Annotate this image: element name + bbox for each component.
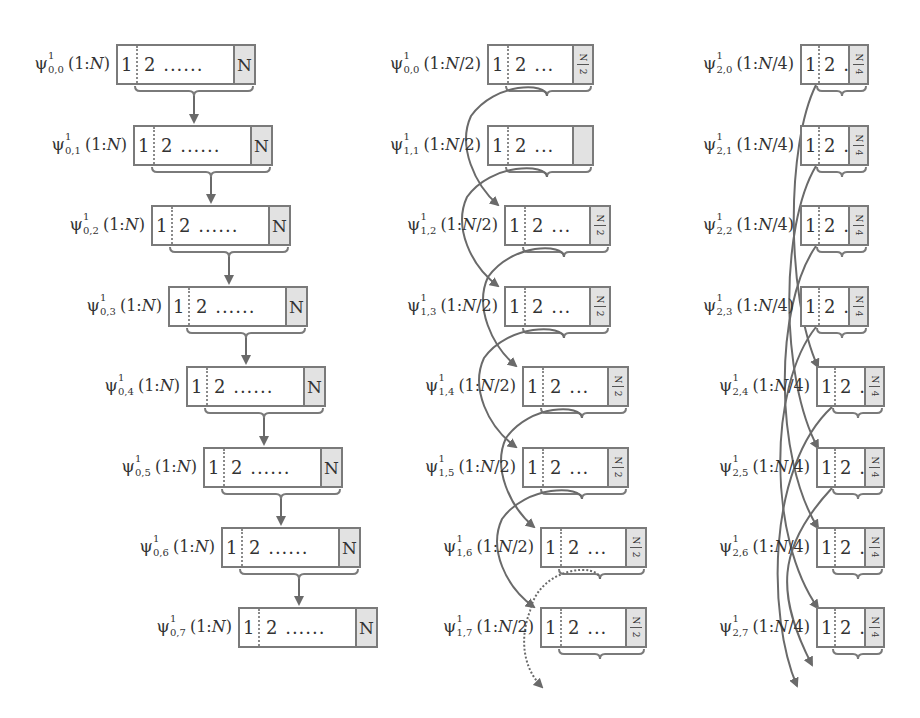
superscript: 1 bbox=[732, 534, 738, 544]
node-label: ψ11,6(1:N/2) bbox=[443, 538, 534, 556]
cell-index-1: 1 bbox=[821, 529, 832, 566]
index-stack: 12,0 bbox=[716, 57, 736, 73]
index-stack: 12,7 bbox=[732, 620, 752, 636]
index-stack: 10,3 bbox=[100, 299, 120, 315]
psi-symbol: ψ bbox=[703, 134, 716, 154]
range-text: (1:N) bbox=[68, 54, 110, 73]
cell-index-1: 1 bbox=[138, 127, 149, 164]
end-cell-denominator: 4 bbox=[870, 632, 879, 638]
range-text: (1:N) bbox=[155, 457, 197, 476]
superscript: 1 bbox=[420, 293, 426, 303]
subscript: 0,0 bbox=[48, 65, 64, 75]
brace bbox=[817, 86, 866, 96]
node-label: ψ11,1(1:N/2) bbox=[390, 136, 481, 154]
end-cell-numerator: N bbox=[596, 215, 605, 223]
end-cell-numerator: N bbox=[614, 376, 623, 384]
cell-divider bbox=[818, 46, 820, 83]
cell-divider bbox=[834, 609, 836, 646]
range-variable: N bbox=[498, 617, 512, 636]
cell-divider bbox=[834, 529, 836, 566]
end-cell-denominator: 4 bbox=[854, 311, 863, 317]
cell-index-2-ellipsis: 2 ...... bbox=[249, 529, 309, 566]
end-cell: N2 bbox=[625, 529, 645, 566]
subscript: 2,5 bbox=[732, 468, 748, 478]
node-label: ψ12,2(1:N/4) bbox=[703, 216, 794, 234]
end-cell-numerator: N bbox=[614, 457, 623, 465]
cell-index-1: 1 bbox=[509, 288, 520, 325]
superscript: 1 bbox=[438, 373, 444, 383]
fraction-bar bbox=[612, 467, 625, 468]
psi-symbol: ψ bbox=[703, 214, 716, 234]
end-cell-numerator: N bbox=[870, 376, 879, 384]
range-text: (1:N) bbox=[85, 135, 127, 154]
cell-index-1: 1 bbox=[805, 288, 816, 325]
node-label: ψ10,1(1:N) bbox=[52, 136, 127, 154]
node-label: ψ12,5(1:N/4) bbox=[719, 458, 810, 476]
range-text: (1:N/2) bbox=[476, 617, 534, 636]
index-stack: 11,2 bbox=[420, 218, 440, 234]
range-text: (1:N/2) bbox=[423, 135, 481, 154]
fraction-bar bbox=[853, 64, 865, 65]
range-variable: N bbox=[90, 54, 104, 73]
end-cell-denominator: 2 bbox=[613, 391, 622, 397]
range-text: (1:N) bbox=[120, 296, 162, 315]
fraction-bar bbox=[869, 467, 881, 468]
node-label: ψ10,5(1:N) bbox=[122, 458, 197, 476]
cell-divider bbox=[542, 449, 544, 486]
superscript: 1 bbox=[732, 614, 738, 624]
coefficient-array-box: 12 ...N2 bbox=[522, 366, 629, 407]
end-cell-numerator: N bbox=[870, 537, 879, 545]
coefficient-array-box: 12 ..N4 bbox=[816, 447, 885, 488]
subscript: 0,3 bbox=[100, 307, 116, 317]
subscript: 2,0 bbox=[716, 65, 732, 75]
cell-index-1: 1 bbox=[545, 529, 556, 566]
cell-index-1: 1 bbox=[208, 449, 219, 486]
fraction-bar bbox=[869, 547, 881, 548]
cell-divider bbox=[560, 529, 562, 566]
psi-symbol: ψ bbox=[425, 375, 438, 395]
cell-index-1: 1 bbox=[821, 449, 832, 486]
cell-index-2-ellipsis: 2 ... bbox=[515, 127, 554, 164]
cell-divider bbox=[507, 46, 509, 83]
cell-divider bbox=[818, 127, 820, 164]
cell-index-1: 1 bbox=[821, 609, 832, 646]
cell-divider bbox=[834, 368, 836, 405]
end-cell: N4 bbox=[848, 127, 867, 164]
index-stack: 12,3 bbox=[716, 299, 736, 315]
superscript: 1 bbox=[456, 614, 462, 624]
end-cell: N2 bbox=[589, 288, 609, 325]
end-cell bbox=[572, 127, 592, 164]
brace bbox=[833, 408, 882, 418]
range-variable: N bbox=[480, 457, 494, 476]
psi-symbol: ψ bbox=[407, 295, 420, 315]
range-text: (1:N/4) bbox=[736, 215, 794, 234]
cell-index-1: 1 bbox=[156, 207, 167, 244]
end-cell: N bbox=[303, 368, 324, 405]
range-text: (1:N) bbox=[138, 376, 180, 395]
superscript: 1 bbox=[716, 293, 722, 303]
end-cell: N4 bbox=[864, 449, 883, 486]
range-variable: N bbox=[445, 135, 459, 154]
cell-divider bbox=[136, 46, 138, 83]
range-variable: N bbox=[774, 457, 788, 476]
index-stack: 10,1 bbox=[65, 138, 85, 154]
cell-divider bbox=[542, 368, 544, 405]
cell-divider bbox=[241, 529, 243, 566]
brace bbox=[170, 247, 288, 257]
connector-layer bbox=[0, 0, 920, 718]
range-variable: N bbox=[758, 135, 772, 154]
superscript: 1 bbox=[118, 373, 124, 383]
coefficient-array-box: 12 ......N bbox=[238, 607, 378, 648]
subscript: 0,2 bbox=[83, 226, 99, 236]
end-cell: N bbox=[250, 127, 271, 164]
fraction-bar bbox=[630, 547, 643, 548]
fraction-bar bbox=[869, 627, 881, 628]
brace bbox=[817, 328, 866, 338]
wavelet-packet-diagram: ψ10,0(1:N)12 ......Nψ10,1(1:N)12 ......N… bbox=[0, 0, 920, 718]
range-text: (1:N/2) bbox=[458, 457, 516, 476]
end-cell: N2 bbox=[572, 46, 592, 83]
psi-symbol: ψ bbox=[703, 53, 716, 73]
psi-symbol: ψ bbox=[105, 375, 118, 395]
psi-symbol: ψ bbox=[719, 375, 732, 395]
subscript: 0,5 bbox=[135, 468, 151, 478]
